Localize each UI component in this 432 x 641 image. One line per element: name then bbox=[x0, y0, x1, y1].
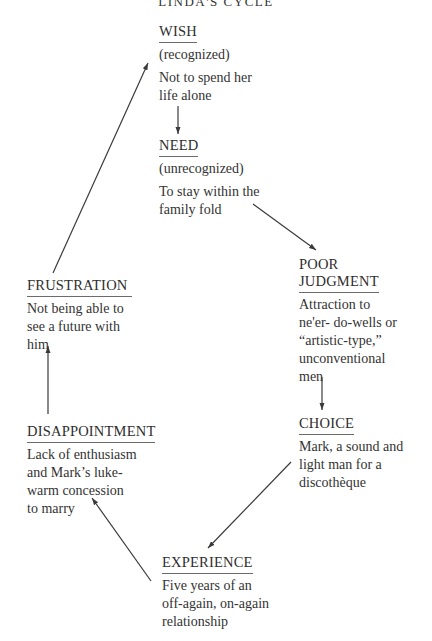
arrow-frustration-to-wish bbox=[53, 63, 148, 273]
node-qualifier: (recognized) bbox=[159, 46, 319, 63]
node-description: Attraction to ne'er- do-wells or “artist… bbox=[299, 296, 432, 386]
node-heading: EXPERIENCE bbox=[162, 554, 253, 574]
node-choice: CHOICE Mark, a sound and light man for a… bbox=[299, 414, 432, 492]
node-description: Not to spend her life alone bbox=[159, 69, 319, 105]
node-heading: POOR JUDGMENT bbox=[299, 256, 379, 293]
node-description: Lack of enthusiasm and Mark’s luke- warm… bbox=[27, 446, 167, 518]
node-heading: FRUSTRATION bbox=[27, 277, 132, 297]
node-description: To stay within the family fold bbox=[159, 183, 329, 219]
node-experience: EXPERIENCE Five years of an off-again, o… bbox=[162, 553, 332, 631]
node-description: Mark, a sound and light man for a discot… bbox=[299, 438, 432, 492]
node-heading: WISH bbox=[159, 23, 197, 43]
node-need: NEED (unrecognized) To stay within the f… bbox=[159, 136, 329, 219]
node-wish: WISH (recognized) Not to spend her life … bbox=[159, 22, 319, 105]
node-qualifier: (unrecognized) bbox=[159, 160, 329, 177]
node-heading: NEED bbox=[159, 137, 198, 157]
node-disappointment: DISAPPOINTMENT Lack of enthusiasm and Ma… bbox=[27, 422, 167, 518]
node-heading: DISAPPOINTMENT bbox=[27, 423, 155, 443]
node-heading: CHOICE bbox=[299, 415, 354, 435]
arrow-choice-to-experience bbox=[208, 462, 291, 548]
node-description: Not being able to see a future with him bbox=[27, 300, 167, 354]
node-poor-judgment: POOR JUDGMENT Attraction to ne'er- do-we… bbox=[299, 256, 432, 386]
node-description: Five years of an off-again, on-again rel… bbox=[162, 577, 332, 631]
node-frustration: FRUSTRATION Not being able to see a futu… bbox=[27, 276, 167, 354]
